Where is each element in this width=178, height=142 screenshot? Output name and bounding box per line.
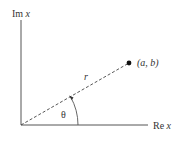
angle-arc bbox=[71, 97, 79, 125]
radius-label: r bbox=[84, 71, 88, 82]
angle-label: θ bbox=[61, 109, 66, 120]
complex-plane-diagram: Im x Re x (a, b) r θ bbox=[0, 0, 178, 142]
y-axis-label: Im x bbox=[12, 8, 31, 19]
x-axis-label: Re x bbox=[153, 120, 172, 131]
point-ab bbox=[127, 61, 132, 66]
radius-line bbox=[21, 63, 129, 125]
point-label: (a, b) bbox=[137, 57, 159, 69]
